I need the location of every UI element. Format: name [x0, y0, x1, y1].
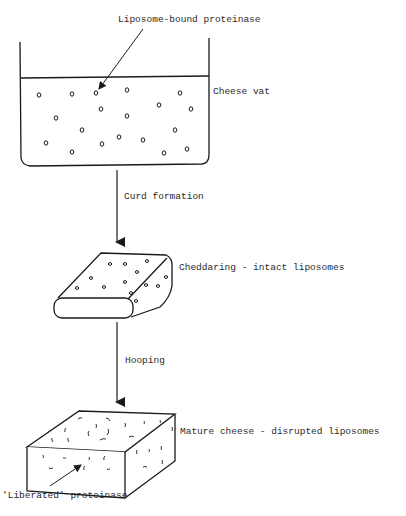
- mature-cheese-block: [27, 411, 175, 498]
- label-cheddaring: Cheddaring - intact liposomes: [179, 263, 344, 273]
- liposome-dot: [54, 116, 58, 120]
- liposome-dot: [44, 141, 48, 145]
- liposome-dot: [37, 93, 41, 97]
- liposome-dot: [125, 88, 129, 92]
- liposome-dot: [141, 138, 145, 142]
- liposome-dot: [157, 103, 161, 107]
- liposome-dot: [162, 151, 166, 155]
- liposome-dot: [80, 128, 84, 132]
- curd-slab: [54, 253, 172, 318]
- label-cheese-vat: Cheese vat: [213, 87, 270, 97]
- vat-liposomes: [37, 88, 193, 155]
- liposome-dot: [117, 135, 121, 139]
- label-hooping: Hooping: [125, 356, 165, 366]
- liposome-dot: [185, 147, 189, 151]
- liposome-dot: [94, 91, 98, 95]
- label-mature-cheese: Mature cheese - disrupted liposomes: [180, 427, 380, 437]
- liposome-dot: [99, 107, 103, 111]
- liposome-dot: [100, 142, 104, 146]
- liposome-pointer-arrow: [99, 29, 143, 89]
- liposome-dot: [70, 150, 74, 154]
- process-diagram: [0, 0, 406, 516]
- liposome-dot: [70, 92, 74, 96]
- diagram-canvas: Liposome-bound proteinase Cheese vat Cur…: [0, 0, 406, 516]
- liposome-dot: [173, 128, 177, 132]
- liposome-dot: [178, 91, 182, 95]
- liquid-surface: [21, 76, 209, 78]
- liposome-dot: [189, 107, 193, 111]
- liposome-dot: [125, 114, 129, 118]
- label-liposome-bound-proteinase: Liposome-bound proteinase: [118, 15, 261, 25]
- label-liberated-proteinase: 'Liberated' proteinase: [2, 491, 127, 501]
- cheese-vat: [20, 38, 209, 166]
- label-curd-formation: Curd formation: [124, 192, 204, 202]
